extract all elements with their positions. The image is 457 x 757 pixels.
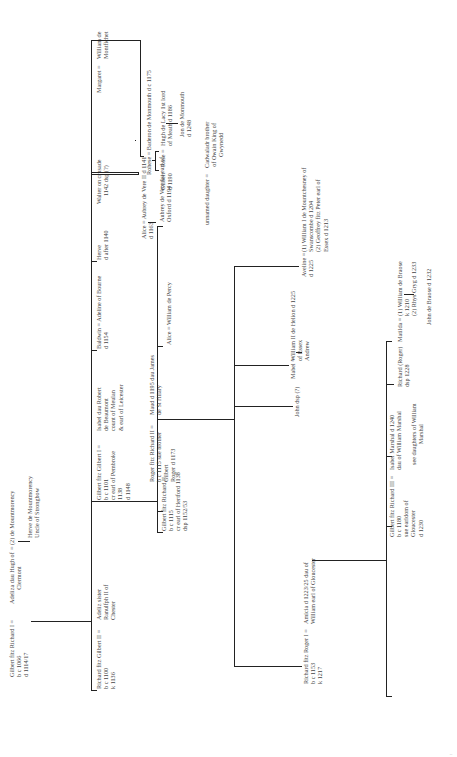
connector [91,690,97,691]
person-name: Alice [140,226,147,239]
spouse-hugh-de-lacy: Hugh de Lacy 1st lord of Meath d 1186 [159,91,173,146]
connector [386,341,392,342]
walter-details: 1142 dsp (?) [102,165,109,196]
person-name: Gilbert fitz Richard I [8,625,15,677]
connector [135,140,136,141]
spouse-name: William de Percy [165,282,172,325]
spouse-name: Baderon de Monmouth d c 1175 [145,70,152,150]
baldwin-details: d 1154 [102,332,109,349]
andrew: Andrew [303,341,310,361]
connector [157,346,163,347]
see-daughters-note: see daughters of William Marshal [410,403,424,465]
matilda: Matilda = [396,316,403,342]
spouse-name: Aubrey de Vere II d 1141 [140,157,147,220]
connector [240,666,302,667]
connector [240,406,293,407]
spouse-adeliza: Adeliza dau Hugh of Clermont [8,552,22,604]
connector [386,384,394,385]
person-name: Gilbert fitz Gilbert I [95,450,102,500]
john-de-braose: John de Braose d 1232 [425,269,432,325]
spouse-matilda: (1) William de Braose k 1210 (2) Rhys Gr… [396,261,418,316]
spouse-william-de-montfichet: William de Montfichet [95,32,109,60]
person-name: Baldwin [95,328,102,349]
person-name: unnamed daughter [203,179,210,225]
spouse-name: Adeline of Bourne [95,276,102,322]
alice-de-percy: Alice = William de Percy [165,282,172,345]
connector [91,261,97,262]
spouse-isabel-marshal: Isabel Marshal d 1240 dau of William Mar… [388,411,402,470]
spouse-maud: Maud d 1195 dau James de St Hilary [148,355,162,415]
connector [404,294,414,295]
person-name: Richard fitz Roger I [302,634,309,684]
gen4-sibling-bar [234,267,235,667]
person-name: Alice [165,332,172,345]
connector [91,174,139,175]
connector [91,350,97,351]
herve-details: d after 1140 [102,230,109,260]
margaret: Margaret = [95,64,102,93]
connector [166,123,178,124]
page-marker: : [448,754,453,755]
connector [157,532,163,533]
spouse-name: (2) de Mountmorency [8,491,15,545]
gilbert-i-details: b c 1066 d 1114/17 [15,653,29,677]
herve-de-mountmorency: Herve de Mountmorency Uncle of Strongbow [26,476,40,538]
person-name: Gilbert fitz Richard III [388,481,395,537]
connector [240,365,289,366]
gen2-sibling-bar [91,41,92,691]
spouse-aveline: (1) William I de Mountchesney of Swansco… [300,168,329,252]
spouse-isabel: Isabel dau Robert de Beaumont count of M… [95,384,124,431]
john-dsp: John dsp (?) [293,387,300,417]
person-name: Mabel [289,363,296,379]
spouse-amicia: Amicia d 1223/25 dau of William earl of … [302,558,316,624]
connector [91,40,141,41]
richard-roger-dsp: dsp 1228 [403,364,410,387]
jon-de-monmouth: Jon de Monmouth d 1248 [178,92,192,137]
margaret-children-bar [140,40,141,157]
spouse-william-de-helion: William II de Helion d 1225 of Essex [289,291,303,361]
person-name: Aveline [300,258,307,277]
aubrey-de-vere: Aubrey de Vere 1st earl of Oxford d 1194 [158,157,172,222]
gilbert-gilbert-i-details: b c 1101 cr earl of Pembroke 1138 d 1148 [102,451,131,500]
connector [296,352,302,353]
spouse-adeliz: Adeliz sister Ranulfph II of Chester [95,585,117,620]
gilbert-iii-details: b c 1180 sue earldom of Gloucester d 123… [395,500,424,537]
connector [91,501,157,502]
alice-details: d 1163 [147,222,154,239]
spouse-cadwaladr: Cadwaladr brother of Owain King of Gwyne… [203,122,225,168]
connector [312,560,387,561]
aveline-details: d 1225 [307,260,314,277]
connector [240,266,299,267]
roger-ii-details: b c 1115 sue brother Gilbert Roger d 117… [155,432,177,482]
richard-ii-details: b c 1100 k 1136 [102,668,116,689]
connector [31,621,91,622]
richard-roger-details: b c 1153 k 1217 [309,663,323,684]
family-tree-diagram: Gilbert fitz Richard I = Adeliza dau Hug… [0,0,457,757]
connector [157,419,235,420]
connector [157,226,163,227]
person-name: Roger fitz Richard II [148,430,155,482]
connector [155,151,156,171]
spouse-de-mountmorency: = (2) de Mountmorency [8,491,15,550]
connector [18,541,30,542]
connector [386,526,392,527]
unnamed-daughter: unnamed daughter = [203,173,210,225]
person-name: Richard fitz Gilbert II [95,635,102,689]
connector [148,222,156,223]
person-name: Matilda [396,323,403,342]
connector [386,696,392,697]
person-name: Margaret [95,70,102,93]
